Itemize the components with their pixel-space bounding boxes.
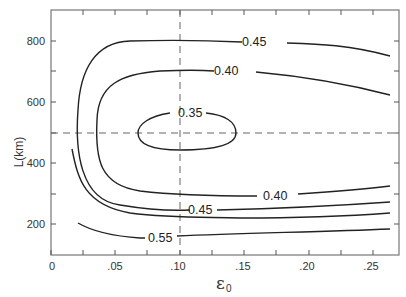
contour-0.40-lower-right [298,186,390,194]
y-tick-labels: 200 400 600 800 [27,35,45,230]
contour-0.45-upper-right [287,43,390,56]
contour-0.55 [78,223,145,238]
y-tick-800: 800 [27,35,45,47]
contour-label-040-top: 0.40 [214,64,238,78]
contour-label-040-bottom: 0.40 [263,189,287,203]
contour-label-045-top: 0.45 [242,35,266,49]
contour-label-045-bottom: 0.45 [188,203,212,217]
x-tick-0: 0 [49,260,55,272]
x-tick-labels: 0 .05 .10 .15 .20 .25 [49,260,379,272]
contour-chart: 0.45 0.40 0.35 0.40 0.45 0.55 0 .05 .10 … [0,0,406,297]
y-axis-title: L(km) [12,137,26,168]
x-tick-025: .25 [363,260,378,272]
x-axis-title: ε [216,273,225,293]
contour-0.40-upper-right [256,72,390,95]
y-tick-200: 200 [27,218,45,230]
y-tick-600: 600 [27,96,45,108]
y-tick-400: 400 [27,157,45,169]
contour-0.50 [72,149,390,218]
contour-label-035: 0.35 [178,106,202,120]
x-tick-015: .15 [235,260,250,272]
x-tick-020: .20 [299,260,314,272]
contour-label-055: 0.55 [148,231,172,245]
x-tick-010: .10 [170,260,185,272]
contour-0.55-right [177,229,390,236]
x-tick-005: .05 [107,260,122,272]
x-axis-title-subscript: 0 [226,283,232,294]
contour-0.45-lower-right [217,202,390,210]
